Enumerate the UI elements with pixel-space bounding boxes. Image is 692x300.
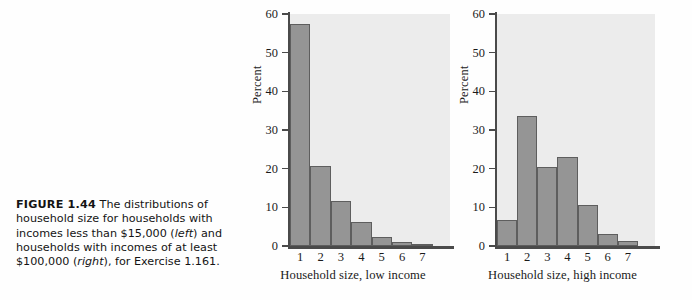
x-axis-tick-label: 3: [537, 250, 557, 265]
y-axis-tick: 30: [282, 129, 288, 131]
x-axis-tick-label: 6: [392, 250, 412, 265]
histogram-bar: [578, 205, 598, 246]
y-axis-line-low-income: [288, 12, 290, 248]
y-axis-tick-label: 20: [266, 161, 278, 176]
x-axis-tick-label: 2: [517, 250, 537, 265]
figure-caption: FIGURE 1.44 The distributions of househo…: [16, 198, 238, 269]
y-axis-tick: 40: [489, 91, 495, 93]
y-axis-tick-label: 0: [479, 238, 485, 253]
histogram-bar: [557, 157, 577, 246]
x-axis-title-high-income: Household size, high income: [455, 268, 670, 283]
x-axis-tick-label: 6: [598, 250, 618, 265]
histogram-bar: [372, 237, 392, 246]
y-axis-tick: 10: [489, 207, 495, 209]
y-axis-tick: 30: [489, 129, 495, 131]
y-axis-tick: 60: [489, 13, 495, 15]
y-axis-tick-label: 10: [473, 200, 485, 215]
y-axis-tick-label: 50: [473, 45, 485, 60]
caption-line-6: ), for Exercise 1.161.: [104, 255, 220, 268]
x-axis-tick-label: 4: [351, 250, 371, 265]
y-axis-tick: 40: [282, 91, 288, 93]
chart-low-income: Percent Household size, low income 01020…: [248, 0, 458, 300]
x-axis-tick-label: 3: [331, 250, 351, 265]
y-axis-tick-label: 60: [473, 6, 485, 21]
histogram-bar: [331, 201, 351, 246]
x-axis-tick-label: 1: [497, 250, 517, 265]
y-axis-title-low-income: Percent: [250, 65, 265, 104]
y-axis-tick: 50: [489, 52, 495, 54]
x-axis-tick-label: 2: [310, 250, 330, 265]
y-axis-title-high-income: Percent: [457, 65, 472, 104]
caption-right-emphasis: right: [77, 255, 103, 268]
y-axis-tick-label: 40: [266, 84, 278, 99]
y-axis-tick-label: 60: [266, 6, 278, 21]
y-axis-tick: 0: [282, 245, 288, 247]
chart-high-income: Percent Household size, high income 0102…: [455, 0, 670, 300]
y-axis-tick: 60: [282, 13, 288, 15]
y-axis-tick-label: 0: [272, 238, 278, 253]
x-axis-tick-label: 5: [372, 250, 392, 265]
x-axis-line-high-income: [495, 246, 660, 249]
y-axis-tick-label: 40: [473, 84, 485, 99]
histogram-bar: [497, 220, 517, 246]
x-axis-line-low-income: [288, 246, 454, 249]
y-axis-tick-label: 30: [266, 122, 278, 137]
y-axis-line-high-income: [495, 12, 497, 248]
y-axis-tick: 50: [282, 52, 288, 54]
y-axis-tick: 10: [282, 207, 288, 209]
histogram-bar: [351, 222, 371, 246]
x-axis-tick-label: 1: [290, 250, 310, 265]
y-axis-tick-label: 10: [266, 200, 278, 215]
x-axis-tick-label: 5: [578, 250, 598, 265]
x-axis-tick-label: 7: [618, 250, 638, 265]
x-axis-title-low-income: Household size, low income: [248, 268, 458, 283]
histogram-bar: [537, 167, 557, 246]
y-axis-tick: 20: [489, 168, 495, 170]
histogram-bar: [598, 234, 618, 246]
x-axis-tick-label: 4: [557, 250, 577, 265]
histogram-bar: [290, 24, 310, 246]
plot-area-low-income: [290, 14, 450, 246]
caption-left-emphasis: left: [175, 227, 193, 240]
x-axis-tick-label: 7: [412, 250, 432, 265]
histogram-bar: [310, 166, 330, 246]
y-axis-tick-label: 50: [266, 45, 278, 60]
y-axis-tick-label: 20: [473, 161, 485, 176]
y-axis-tick: 20: [282, 168, 288, 170]
y-axis-tick-label: 30: [473, 122, 485, 137]
caption-line-1: The distributions: [100, 198, 194, 211]
plot-area-high-income: [497, 14, 655, 246]
y-axis-tick: 0: [489, 245, 495, 247]
histogram-bar: [517, 116, 537, 246]
figure-number: FIGURE 1.44: [16, 198, 96, 211]
